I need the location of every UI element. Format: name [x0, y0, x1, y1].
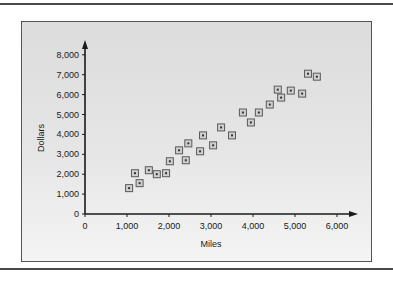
data-point-marker: [210, 142, 217, 149]
data-point-marker: [166, 158, 173, 165]
x-tick-label: 3,000: [200, 221, 223, 231]
data-point-marker: [287, 87, 294, 94]
data-point-marker: [278, 94, 285, 101]
scatter-chart: 01,0002,0003,0004,0005,0006,0007,0008,00…: [0, 0, 393, 281]
x-tick-label: 0: [82, 221, 87, 231]
data-point-marker: [176, 147, 183, 154]
x-axis-ticks: 01,0002,0003,0004,0005,0006,000: [82, 214, 348, 231]
y-tick-label: 7,000: [56, 70, 79, 80]
data-point-marker: [218, 124, 225, 131]
data-point-marker: [255, 109, 262, 116]
data-point-marker: [299, 90, 306, 97]
y-tick-label: 3,000: [56, 149, 79, 159]
data-point-marker: [247, 119, 254, 126]
data-point-marker: [266, 101, 273, 108]
y-tick-label: 4,000: [56, 129, 79, 139]
y-tick-label: 8,000: [56, 50, 79, 60]
y-axis-title: Dollars: [36, 124, 46, 153]
data-point-marker: [200, 132, 207, 139]
x-tick-label: 1,000: [116, 221, 139, 231]
data-point-marker: [229, 132, 236, 139]
data-point-marker: [182, 157, 189, 164]
x-axis-title: Miles: [200, 239, 222, 249]
data-point-marker: [239, 109, 246, 116]
y-axis-ticks: 01,0002,0003,0004,0005,0006,0007,0008,00…: [56, 50, 85, 219]
x-tick-label: 6,000: [326, 221, 349, 231]
bottom-rule: [0, 268, 393, 270]
data-point-marker: [145, 167, 152, 174]
x-axis-arrow-icon: [349, 211, 358, 217]
y-axis-arrow-icon: [82, 40, 88, 49]
data-point-marker: [274, 86, 281, 93]
x-tick-label: 2,000: [158, 221, 181, 231]
x-tick-label: 5,000: [284, 221, 307, 231]
data-point-marker: [163, 170, 170, 177]
data-point-marker: [153, 171, 160, 178]
y-tick-label: 6,000: [56, 90, 79, 100]
data-point-marker: [313, 73, 320, 80]
y-tick-label: 5,000: [56, 110, 79, 120]
data-points: [126, 70, 321, 191]
x-tick-label: 4,000: [242, 221, 265, 231]
y-tick-label: 1,000: [56, 189, 79, 199]
data-point-marker: [197, 148, 204, 155]
data-point-marker: [305, 70, 312, 77]
data-point-marker: [126, 185, 133, 192]
y-tick-label: 2,000: [56, 169, 79, 179]
data-point-marker: [185, 140, 192, 147]
data-point-marker: [136, 180, 143, 187]
y-tick-label: 0: [74, 209, 79, 219]
data-point-marker: [131, 170, 138, 177]
